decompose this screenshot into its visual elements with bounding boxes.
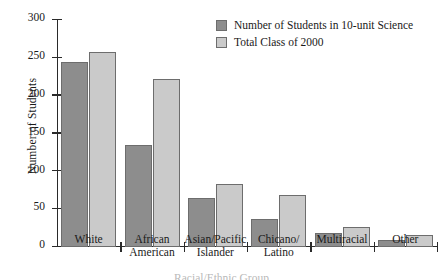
legend-swatch-icon: [216, 20, 227, 31]
x-axis-category-label: White: [57, 233, 120, 246]
y-axis-line: [57, 20, 58, 247]
legend-item-label: Total Class of 2000: [234, 36, 324, 48]
x-axis-category-label: Asian/Pacific Islander: [184, 233, 247, 258]
x-axis-category-label: Multiracial: [310, 233, 373, 246]
bar: [125, 145, 152, 247]
y-axis-tick: 300: [52, 19, 62, 20]
bar-chart: Number of Students 050100150200250300 Wh…: [0, 0, 443, 280]
y-axis-tick-label: 100: [28, 163, 45, 175]
y-axis-tick-label: 150: [28, 125, 45, 137]
x-axis-title: Racial/Ethnic Group: [0, 272, 443, 280]
bar: [153, 79, 180, 247]
x-axis-tick: [437, 242, 438, 252]
plot-area: 050100150200250300: [57, 20, 437, 247]
legend: Number of Students in 10-unit Science To…: [216, 19, 413, 53]
legend-item: Number of Students in 10-unit Science: [216, 19, 413, 31]
x-axis-category-label: African American: [120, 233, 183, 258]
y-axis-tick-label: 0: [39, 238, 45, 250]
x-axis-category-label: Chicano/ Latino: [247, 233, 310, 258]
y-axis-tick-label: 50: [34, 200, 46, 212]
bar: [61, 62, 88, 247]
y-axis-tick-label: 250: [28, 49, 45, 61]
x-axis-category-label: Other: [374, 233, 437, 246]
y-axis-tick: 250: [52, 57, 62, 58]
bar: [89, 52, 116, 247]
legend-swatch-icon: [216, 37, 227, 48]
legend-item-label: Number of Students in 10-unit Science: [234, 19, 413, 31]
legend-item: Total Class of 2000: [216, 36, 413, 48]
y-axis-tick-label: 300: [28, 11, 45, 23]
y-axis-tick-label: 200: [28, 87, 45, 99]
